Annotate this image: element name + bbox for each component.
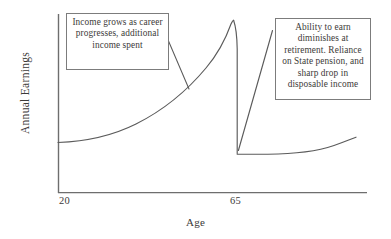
earnings-lifecycle-chart: Income grows as career progresses, addit… bbox=[0, 0, 391, 239]
x-axis-title: Age bbox=[0, 216, 391, 228]
annotation-retirement: Ability to earn diminishes at retirement… bbox=[275, 18, 371, 100]
annotation-1-leader-line bbox=[169, 41, 190, 89]
y-axis-title: Annual Earnings bbox=[19, 23, 31, 163]
annotation-income-growth: Income grows as career progresses, addit… bbox=[66, 13, 169, 70]
post-retirement-income-curve bbox=[237, 137, 356, 154]
disposable-income-gap-line bbox=[238, 31, 272, 151]
x-axis-tick-20: 20 bbox=[59, 195, 70, 206]
retirement-drop-line bbox=[234, 20, 238, 153]
x-axis-tick-65: 65 bbox=[230, 195, 241, 206]
